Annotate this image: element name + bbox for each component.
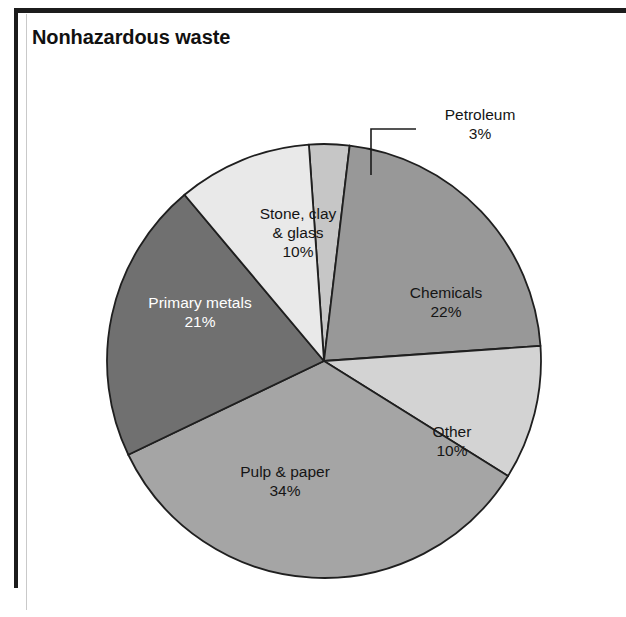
pie-slice-name: & glass — [273, 224, 324, 241]
pie-slice-value: 10% — [436, 442, 467, 459]
pie-slice-name: Petroleum — [445, 106, 516, 123]
pie-slice-name: Primary metals — [148, 294, 252, 311]
pie-slice-name: Chemicals — [410, 284, 483, 301]
pie-slice-name: Other — [433, 423, 472, 440]
pie-slice-value: 21% — [184, 313, 215, 330]
pie-slice-value: 34% — [269, 482, 300, 499]
pie-slice-value: 3% — [469, 125, 492, 142]
pie-slice-value: 10% — [282, 243, 313, 260]
pie-slice-label: Petroleum3% — [445, 106, 516, 142]
pie-slice-value: 22% — [430, 303, 461, 320]
pie-slice-name: Stone, clay — [260, 205, 337, 222]
figure-page: Nonhazardous waste Petroleum3%Chemicals2… — [0, 0, 626, 617]
pie-slice[interactable] — [324, 146, 540, 361]
pie-chart: Petroleum3%Chemicals22%Other10%Pulp & pa… — [0, 0, 626, 617]
pie-slice-name: Pulp & paper — [240, 463, 330, 480]
pie-chart-svg: Petroleum3%Chemicals22%Other10%Pulp & pa… — [0, 0, 626, 617]
